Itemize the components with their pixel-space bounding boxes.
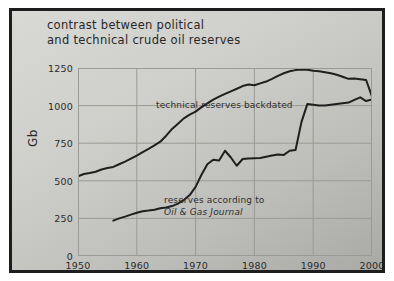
x-tick-label: 1990 bbox=[301, 260, 326, 271]
x-tick-label: 1980 bbox=[242, 260, 267, 271]
y-tick-label: 500 bbox=[54, 175, 73, 186]
x-tick-label: 1960 bbox=[124, 260, 149, 271]
plot-frame bbox=[78, 68, 372, 256]
title-line-1: contrast between political bbox=[47, 18, 347, 33]
x-tick-label: 2000 bbox=[360, 260, 385, 271]
y-tick-label: 750 bbox=[54, 138, 73, 149]
chart-plate: contrast between political and technical… bbox=[9, 8, 385, 273]
title-line-2: and technical crude oil reserves bbox=[47, 33, 347, 48]
figure-container: contrast between political and technical… bbox=[0, 0, 394, 281]
chart-title: contrast between political and technical… bbox=[47, 18, 347, 48]
annotation-technical-reserves: technical reserves backdated bbox=[156, 100, 293, 110]
x-tick-label: 1950 bbox=[66, 260, 91, 271]
y-tick-label: 1000 bbox=[48, 100, 73, 111]
y-tick-label: 1250 bbox=[48, 63, 73, 74]
annotation-ogj-line2: Oil & Gas Journal bbox=[164, 207, 243, 217]
x-tick-label: 1970 bbox=[183, 260, 208, 271]
annotation-ogj-line1: reserves according to bbox=[164, 195, 265, 205]
y-tick-label: 250 bbox=[54, 213, 73, 224]
y-axis-label: Gb bbox=[26, 129, 40, 147]
plot-area: 025050075010001250 195019601970198019902… bbox=[78, 68, 372, 256]
